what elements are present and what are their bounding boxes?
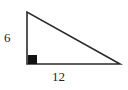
triangle-figure-canvas: 6 12 bbox=[0, 0, 128, 90]
vertical-leg-length-label: 6 bbox=[4, 31, 11, 44]
horizontal-leg-length-label: 12 bbox=[52, 70, 65, 83]
right-angle-square-icon bbox=[28, 55, 37, 64]
triangle-outline bbox=[27, 12, 120, 64]
